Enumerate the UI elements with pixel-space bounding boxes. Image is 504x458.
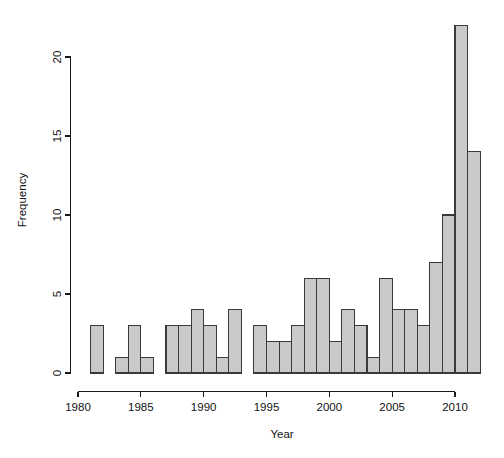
plot-background (0, 0, 504, 458)
histogram-bar (116, 357, 129, 373)
histogram-bar (455, 25, 468, 373)
histogram-bar (367, 357, 380, 373)
histogram-bar (317, 278, 330, 373)
histogram-bar (279, 341, 292, 373)
histogram-bar (292, 326, 305, 373)
histogram-bar (128, 326, 141, 373)
histogram-bar (267, 341, 280, 373)
histogram-plot: 05101520 1980198519901995200020052010 Fr… (0, 0, 504, 458)
histogram-bar (216, 357, 229, 373)
histogram-bar (417, 326, 430, 373)
x-axis-tick-label: 1985 (128, 401, 154, 413)
histogram-bar (91, 326, 104, 373)
histogram-bar (405, 310, 418, 373)
histogram-bar (229, 310, 242, 373)
x-axis-title: Year (270, 428, 293, 440)
x-axis-tick-label: 1980 (65, 401, 91, 413)
histogram-bar (166, 326, 179, 373)
x-axis-tick-label: 2010 (442, 401, 468, 413)
x-axis-tick-label: 1990 (191, 401, 217, 413)
histogram-bar (329, 341, 342, 373)
histogram-bar (354, 326, 367, 373)
y-axis-tick-label: 15 (51, 130, 63, 143)
y-axis-tick-label: 10 (51, 209, 63, 222)
y-axis-tick-label: 5 (51, 291, 63, 297)
histogram-bar (392, 310, 405, 373)
histogram-bar (380, 278, 393, 373)
histogram-bar (442, 215, 455, 373)
y-axis-title: Frequency (16, 173, 28, 228)
histogram-bar (191, 310, 204, 373)
histogram-bar (430, 262, 443, 373)
histogram-bar (304, 278, 317, 373)
histogram-bar (468, 152, 481, 373)
histogram-bar (141, 357, 154, 373)
x-axis-tick-label: 2005 (379, 401, 405, 413)
y-axis-tick-label: 0 (51, 370, 63, 376)
histogram-bar (204, 326, 217, 373)
x-axis-tick-label: 2000 (317, 401, 343, 413)
histogram-bar (179, 326, 192, 373)
x-axis-tick-label: 1995 (254, 401, 280, 413)
histogram-bar (254, 326, 267, 373)
histogram-figure: 05101520 1980198519901995200020052010 Fr… (0, 0, 504, 458)
histogram-bar (342, 310, 355, 373)
y-axis-tick-label: 20 (51, 51, 63, 64)
